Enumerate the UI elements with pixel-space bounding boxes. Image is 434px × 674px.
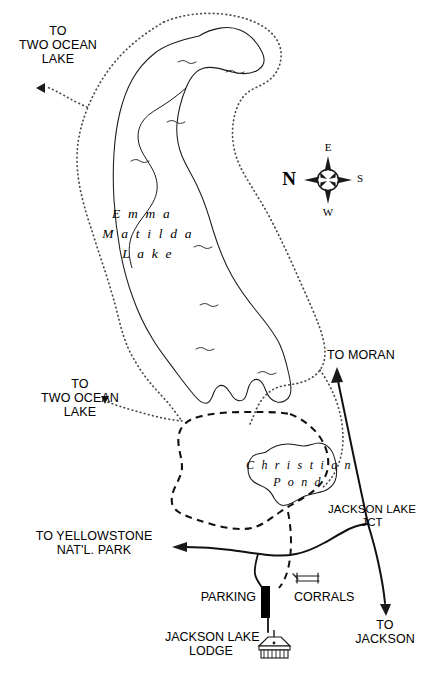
- arrowhead-two-ocean-north: [36, 83, 45, 93]
- label-to-jackson: TO JACKSON: [345, 618, 425, 646]
- trail-dotted-to-two-ocean-north[interactable]: [47, 87, 87, 107]
- label-emma-matilda-line1: E m m a: [82, 206, 202, 221]
- map-graphics-layer: [0, 0, 434, 674]
- label-christian-pond-line1: C h r i s t i a n: [246, 459, 346, 472]
- arrowhead-to-yellowstone: [172, 542, 187, 552]
- compass-east-label: E: [318, 141, 338, 153]
- label-to-two-ocean-lake-north: TO TWO OCEAN LAKE: [6, 24, 110, 66]
- label-emma-matilda-line2: M a t i l d a: [88, 226, 208, 241]
- trail-dashed-corral-spur[interactable]: [279, 512, 291, 588]
- trail-dotted-west-shore[interactable]: [77, 22, 182, 421]
- road-to-jackson[interactable]: [368, 524, 385, 603]
- label-jackson-lake-jct: JACKSON LAKE JCT: [322, 503, 422, 529]
- label-parking: PARKING: [190, 590, 256, 604]
- compass-south-label: S: [350, 172, 370, 184]
- compass-north-label: N: [278, 168, 300, 189]
- label-to-yellowstone-natl-park: TO YELLOWSTONE NAT'L. PARK: [18, 529, 170, 557]
- parking-lot-block[interactable]: [261, 586, 270, 618]
- corral-fence-icon: [293, 573, 319, 583]
- compass-rose-icon: [304, 156, 352, 204]
- arrowhead-to-jackson: [380, 604, 391, 616]
- compass-west-label: W: [318, 206, 338, 218]
- label-jackson-lake-lodge: JACKSON LAKE LODGE: [165, 630, 257, 658]
- label-to-two-ocean-lake-south: TO TWO OCEAN LAKE: [28, 377, 132, 419]
- label-to-moran: TO MORAN: [327, 348, 417, 362]
- arrowhead-to-moran: [331, 367, 343, 383]
- label-christian-pond-line2: P o n d: [248, 476, 348, 489]
- map-canvas: TO TWO OCEAN LAKE E m m a M a t i l d a …: [0, 0, 434, 674]
- label-corrals: CORRALS: [294, 590, 364, 604]
- label-emma-matilda-line3: L a k e: [88, 246, 208, 261]
- lodge-building-icon: [259, 630, 290, 658]
